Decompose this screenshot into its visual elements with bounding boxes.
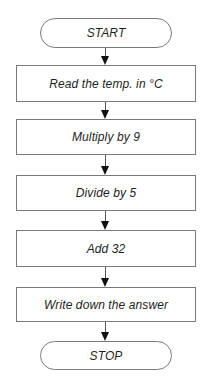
read-temp-label: Read the temp. in °C [49, 77, 163, 91]
process-add: Add 32 [16, 230, 196, 267]
write-answer-label: Write down the answer [44, 298, 168, 312]
process-multiply: Multiply by 9 [16, 119, 196, 155]
stop-label: STOP [90, 349, 123, 363]
arrow-head-icon [101, 332, 109, 341]
arrow-head-icon [101, 278, 109, 287]
flowchart: START Read the temp. in °C Multiply by 9… [0, 0, 208, 389]
arrow-head-icon [101, 110, 109, 119]
divide-label: Divide by 5 [76, 186, 136, 200]
add-label: Add 32 [87, 242, 126, 256]
process-write-answer: Write down the answer [16, 287, 196, 322]
arrow-head-icon [101, 221, 109, 230]
arrow-head-icon [101, 56, 109, 65]
process-divide: Divide by 5 [16, 175, 196, 211]
multiply-label: Multiply by 9 [72, 130, 140, 144]
start-terminal: START [40, 18, 172, 48]
stop-terminal: STOP [40, 341, 172, 370]
start-label: START [87, 26, 126, 40]
process-read-temp: Read the temp. in °C [16, 65, 196, 102]
arrow-head-icon [101, 166, 109, 175]
